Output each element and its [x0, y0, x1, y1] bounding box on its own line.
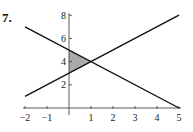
- x-tick-label: −1: [42, 112, 53, 123]
- y-tick-label: 2: [61, 79, 66, 90]
- y-tick-label: 6: [61, 33, 66, 44]
- shaded-region: [69, 50, 91, 73]
- x-tick-label: 2: [111, 112, 116, 123]
- axes: [23, 13, 181, 115]
- y-tick-label: 8: [61, 10, 66, 21]
- chart: −2−1123452468: [0, 0, 193, 132]
- y-tick-label: 4: [61, 56, 66, 67]
- x-tick-label: 1: [89, 112, 94, 123]
- line-decreasing: [25, 27, 179, 108]
- x-tick-label: −2: [20, 112, 31, 123]
- x-tick-label: 4: [155, 112, 160, 123]
- x-tick-label: 3: [133, 112, 138, 123]
- line-increasing: [25, 15, 179, 96]
- shaded-triangle: [69, 50, 91, 73]
- series-lines: [25, 15, 179, 108]
- x-tick-label: 5: [177, 112, 182, 123]
